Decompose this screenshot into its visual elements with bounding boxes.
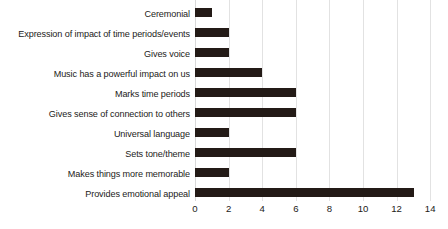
bar-1 — [195, 8, 212, 17]
gridline-2 — [229, 0, 230, 201]
bar-7 — [195, 128, 229, 137]
x-tick-label: 2 — [226, 203, 231, 214]
bar-3 — [195, 48, 229, 57]
gridline-14 — [430, 0, 431, 201]
gridline-8 — [329, 0, 330, 201]
bar-8 — [195, 148, 296, 157]
bar-chart: Ceremonial Expression of impact of time … — [0, 0, 448, 229]
category-label: Sets tone/theme — [6, 149, 190, 159]
x-tick-label: 14 — [425, 203, 436, 214]
bar-4 — [195, 68, 262, 77]
gridline-6 — [296, 0, 297, 201]
plot-area — [195, 0, 431, 201]
x-tick-label: 0 — [192, 203, 197, 214]
category-label: Provides emotional appeal — [6, 189, 190, 199]
category-label: Universal language — [6, 129, 190, 139]
x-tick-label: 4 — [260, 203, 265, 214]
category-label: Gives sense of connection to others — [6, 109, 190, 119]
category-label: Music has a powerful impact on us — [6, 69, 190, 79]
category-label: Ceremonial — [6, 9, 190, 19]
category-label: Marks time periods — [6, 89, 190, 99]
value-axis: 0 2 4 6 8 10 12 14 — [195, 201, 431, 221]
category-axis-labels: Ceremonial Expression of impact of time … — [0, 0, 190, 201]
bar-9 — [195, 168, 229, 177]
gridline-4 — [262, 0, 263, 201]
bar-5 — [195, 88, 296, 97]
gridline-12 — [397, 0, 398, 201]
bar-6 — [195, 108, 296, 117]
bar-10 — [195, 188, 414, 197]
gridline-10 — [363, 0, 364, 201]
category-label: Makes things more memorable — [6, 169, 190, 179]
category-label: Gives voice — [6, 49, 190, 59]
bar-2 — [195, 28, 229, 37]
x-tick-label: 10 — [358, 203, 369, 214]
x-tick-label: 8 — [327, 203, 332, 214]
x-tick-label: 12 — [391, 203, 402, 214]
category-label: Expression of impact of time periods/eve… — [6, 29, 190, 39]
x-tick-label: 6 — [293, 203, 298, 214]
